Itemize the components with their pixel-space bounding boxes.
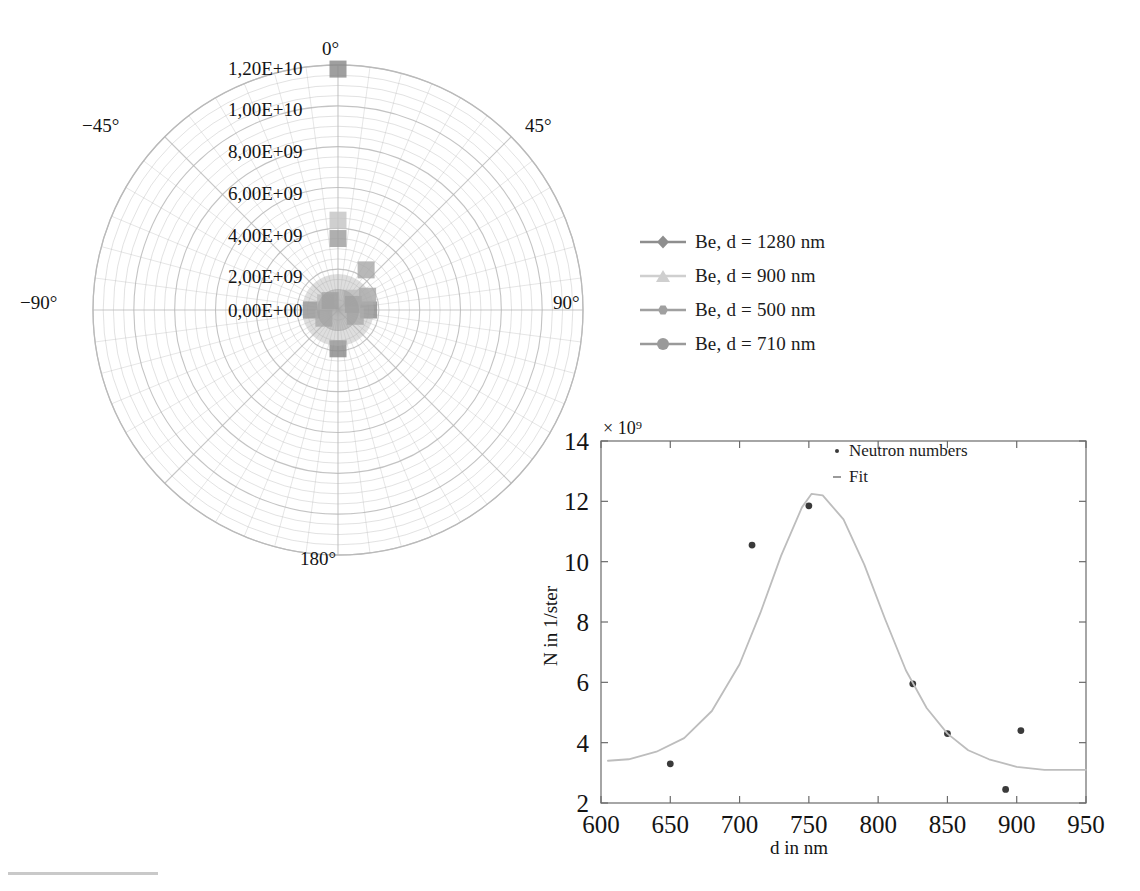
x-tick-label: 800 [859,811,897,838]
neutron-data-point [667,760,674,767]
polar-data-marker [330,230,347,247]
polar-angle-label-neg90deg: −90° [20,292,57,314]
x-tick-label: 650 [652,811,690,838]
legend-item-label-3: Be, d = 710 nm [695,333,816,355]
neutron-numbers-marker-icon [825,445,849,457]
polar-data-marker [330,61,347,78]
fit-line-marker-icon [825,471,849,483]
polar-angle-label-180deg: 180° [300,548,336,570]
polar-angle-label-45deg: 45° [525,115,552,137]
fit-curve [608,494,1086,770]
neutron-data-point [1017,727,1024,734]
polar-legend: Be, d = 1280 nm Be, d = 900 nm Be, d = 5… [640,225,940,375]
y-tick-label: 6 [577,669,590,696]
y-axis-multiplier: × 10⁹ [603,418,642,439]
y-tick-label: 4 [577,730,590,757]
x-tick-label: 700 [721,811,759,838]
neutron-data-point [749,542,756,549]
y-tick-label: 8 [577,609,590,636]
polar-radial-tick-2: 8,00E+09 [228,141,303,163]
legend-marker-circle-icon [640,335,686,353]
inset-scatter-chart: 6006507007508008509009502468101214 × 10⁹… [555,400,1115,870]
inset-legend-item-1[interactable]: Fit [825,464,968,490]
legend-item-3[interactable]: Be, d = 710 nm [640,327,940,361]
polar-angle-label-neg45deg: −45° [82,115,119,137]
inset-plot-frame [601,441,1086,803]
x-tick-label: 950 [1067,811,1105,838]
polar-chart-svg [0,0,620,620]
legend-item-label-0: Be, d = 1280 nm [695,231,825,253]
legend-item-1[interactable]: Be, d = 900 nm [640,259,940,293]
y-tick-label: 14 [564,428,590,455]
neutron-data-point [1002,786,1009,793]
legend-marker-diamond-icon [640,233,686,251]
legend-item-label-1: Be, d = 900 nm [695,265,816,287]
y-tick-label: 10 [564,549,589,576]
polar-angle-label-0deg: 0° [322,38,339,60]
page-bottom-rule [8,872,158,875]
legend-item-2[interactable]: Be, d = 500 nm [640,293,940,327]
legend-marker-hexagon-icon [640,301,686,319]
polar-data-marker [358,261,375,278]
y-tick-label: 2 [577,790,590,817]
inset-legend-label-0: Neutron numbers [849,441,968,461]
legend-item-label-2: Be, d = 500 nm [695,299,816,321]
inset-legend-item-0[interactable]: Neutron numbers [825,438,968,464]
polar-radial-tick-6: 0,00E+00 [228,300,303,322]
polar-radial-tick-4: 4,00E+09 [228,225,303,247]
polar-radial-tick-1: 1,00E+10 [228,99,303,121]
polar-radial-tick-5: 2,00E+09 [228,266,303,288]
inset-legend: Neutron numbers Fit [825,438,968,490]
polar-angle-label-90deg: 90° [553,292,580,314]
x-tick-label: 750 [790,811,828,838]
neutron-data-point [805,502,812,509]
polar-data-marker [330,212,347,229]
x-tick-label: 900 [998,811,1036,838]
scientific-figure: 1,20E+10 1,00E+10 8,00E+09 6,00E+09 4,00… [0,0,1140,891]
x-tick-label: 850 [929,811,967,838]
polar-chart: 1,20E+10 1,00E+10 8,00E+09 6,00E+09 4,00… [0,0,620,620]
legend-item-0[interactable]: Be, d = 1280 nm [640,225,940,259]
polar-radial-tick-3: 6,00E+09 [228,183,303,205]
legend-marker-triangle-icon [640,267,686,285]
inset-legend-label-1: Fit [849,467,868,487]
polar-radial-tick-0: 1,20E+10 [228,58,303,80]
y-axis-title: N in 1/ster [540,586,562,666]
y-tick-label: 12 [564,488,589,515]
x-axis-title: d in nm [770,837,828,859]
